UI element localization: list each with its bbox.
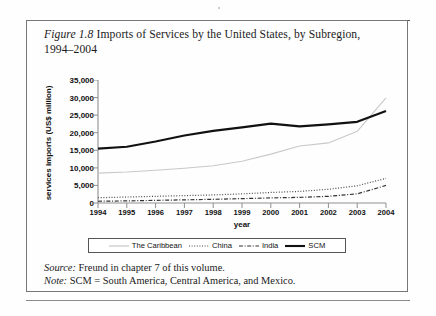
x-tick-2000: 2000 [262,208,279,217]
note-text: SCM = South America, Central America, an… [67,275,295,286]
legend-swatch-scm-icon [285,242,305,250]
legend-swatch-india-icon [239,242,259,250]
source-text: Freund in chapter 7 of this volume. [76,262,225,273]
x-tick-1995: 1995 [118,208,135,217]
figure-title: Figure 1.8 Imports of Services by the Un… [44,28,374,57]
series-line-the-caribbean [98,98,386,173]
legend-item-india[interactable]: India [239,241,278,250]
legend-swatch-caribbean-icon [109,242,129,250]
legend-item-scm[interactable]: SCM [285,241,325,250]
figure-source-line: Source: Freund in chapter 7 of this volu… [44,261,384,274]
x-tick-2003: 2003 [349,208,366,217]
chart-plot-area: services imports (US$ million) 0 5,000 1… [42,80,394,232]
bottom-rule [26,300,410,301]
source-label: Source: [44,262,76,273]
legend-item-caribbean[interactable]: The Caribbean [109,241,182,250]
x-tick-1998: 1998 [205,208,222,217]
x-tick-2001: 2001 [291,208,308,217]
x-tick-1999: 1999 [234,208,251,217]
figure-note-line: Note: SCM = South America, Central Ameri… [44,274,384,287]
x-tick-1996: 1996 [147,208,164,217]
x-tick-1994: 1994 [90,208,107,217]
legend-label-china: China [212,241,232,250]
x-tick-2004: 2004 [378,208,395,217]
x-tick-2002: 2002 [320,208,337,217]
y-axis-ticks [93,80,98,203]
page-speck [218,7,220,9]
x-axis-tick-labels: 1994 1995 1996 1997 1998 1999 2000 2001 … [98,208,386,220]
legend-label-scm: SCM [308,241,325,250]
note-label: Note: [44,275,67,286]
axis-lines [98,80,386,203]
chart-legend: The Caribbean China India SCM [88,238,346,253]
figure-notes: Source: Freund in chapter 7 of this volu… [44,261,384,287]
figure-number: Figure 1.8 [44,28,94,41]
x-axis-label: year [98,220,386,229]
legend-swatch-china-icon [189,242,209,250]
series-line-scm [98,111,386,149]
legend-label-caribbean: The Caribbean [132,241,182,250]
legend-label-india: India [262,241,278,250]
figure-page: Figure 1.8 Imports of Services by the Un… [0,0,436,316]
chart-series-layer [98,98,386,201]
x-tick-1997: 1997 [176,208,193,217]
legend-item-china[interactable]: China [189,241,232,250]
